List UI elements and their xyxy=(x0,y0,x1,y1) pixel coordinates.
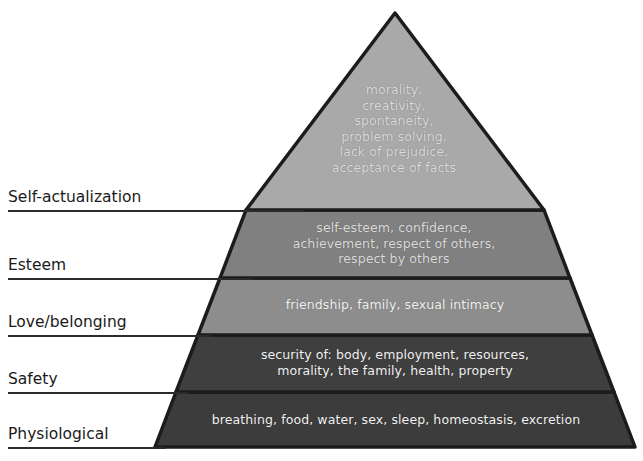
tier-label-esteem[interactable]: Esteem xyxy=(8,256,66,274)
tier-label-love-belonging[interactable]: Love/belonging xyxy=(8,313,127,331)
leader-line-love-belonging xyxy=(8,335,210,337)
pyramid-tier-esteem[interactable] xyxy=(220,210,570,278)
pyramid-tier-safety[interactable] xyxy=(176,335,614,392)
leader-line-physiological xyxy=(8,447,166,449)
diagram-canvas: morality, creativity, spontaneity, probl… xyxy=(0,0,643,461)
pyramid-tier-self-actualization[interactable] xyxy=(246,13,544,210)
tier-label-self-actualization[interactable]: Self-actualization xyxy=(8,188,141,206)
leader-line-self-actualization xyxy=(8,210,304,212)
leader-line-safety xyxy=(8,392,188,394)
leader-line-esteem xyxy=(8,278,253,280)
tier-label-safety[interactable]: Safety xyxy=(8,370,58,388)
pyramid-tier-love-belonging[interactable] xyxy=(198,278,592,335)
pyramid-tier-physiological[interactable] xyxy=(155,392,635,447)
tier-label-physiological[interactable]: Physiological xyxy=(8,425,108,443)
